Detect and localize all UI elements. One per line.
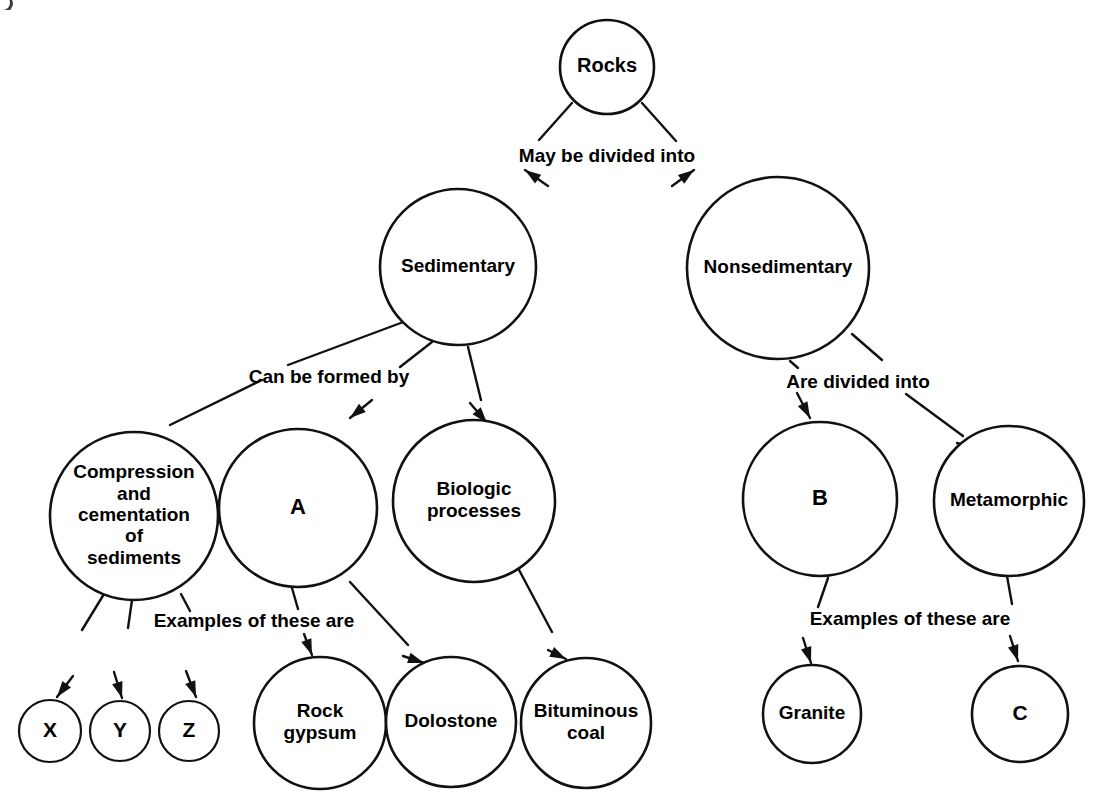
node-biologic[interactable]: Biologicprocesses (393, 420, 555, 582)
nodes-layer: RocksSedimentaryNonsedimentaryCompressio… (19, 20, 1084, 789)
edge-sedimentary-to-biologic: Can be formed by (468, 347, 487, 423)
node-metamorphic[interactable]: Metamorphic (934, 426, 1084, 576)
node-rocks[interactable]: Rocks (560, 20, 654, 114)
edge-line (790, 361, 798, 368)
node-label: X (43, 718, 57, 741)
edge-label-examples-of-these-are-left: Examples of these are (154, 610, 355, 631)
edge-line (906, 394, 963, 436)
node-label: Sedimentary (401, 255, 515, 276)
node-label: Z (183, 718, 196, 741)
edge-line (468, 347, 481, 400)
node-label: Granite (779, 702, 846, 723)
edge-line (852, 334, 882, 360)
edge-line (539, 103, 572, 140)
node-label: B (812, 485, 828, 510)
node-label: Biologicprocesses (427, 478, 521, 520)
node-granite[interactable]: Granite (763, 665, 861, 763)
arrowhead-icon (801, 646, 811, 663)
edge-line (1007, 576, 1012, 604)
edge-line (642, 103, 676, 141)
edge-a-to-dolostone: Examples of these are (350, 582, 424, 663)
node-rockgypsum[interactable]: Rockgypsum (254, 657, 386, 789)
node-label: Rocks (577, 54, 637, 76)
edge-nonsedimentary-to-metamorphic: Are divided into (852, 334, 980, 451)
arrowhead-icon (678, 170, 694, 184)
node-a[interactable]: A (219, 429, 377, 587)
arrowhead-icon (185, 680, 196, 697)
arrowhead-icon (301, 638, 312, 655)
node-label: Dolostone (405, 710, 498, 731)
node-bituminous[interactable]: Bituminouscoal (521, 658, 651, 788)
node-y[interactable]: Y (90, 701, 150, 761)
edge-line (518, 568, 552, 632)
edge-label-can-be-formed-by: Can be formed by (249, 366, 410, 387)
arrowhead-icon (525, 170, 541, 184)
node-label: A (290, 494, 306, 519)
arrowhead-icon (549, 647, 566, 659)
edge-line (288, 321, 406, 365)
edge-biologic-to-bituminous: Examples of these are (518, 568, 566, 659)
arrowhead-icon (407, 653, 424, 663)
node-label: Nonsedimentary (704, 256, 853, 277)
arrowhead-icon (112, 681, 122, 698)
node-sedimentary[interactable]: Sedimentary (380, 189, 536, 345)
edge-line (82, 594, 104, 630)
node-b[interactable]: B (743, 422, 897, 576)
arrowhead-icon (57, 681, 71, 697)
edge-label-may-be-divided-into: May be divided into (519, 145, 695, 166)
node-label: C (1012, 701, 1027, 724)
edge-compression-to-x: Examples of these are (57, 594, 104, 697)
diagram-canvas: May be divided intoMay be divided intoCa… (0, 0, 1101, 811)
node-label: Y (113, 718, 127, 741)
node-label: Metamorphic (950, 489, 1069, 510)
edge-line (181, 594, 190, 611)
node-compression[interactable]: Compressionandcementationofsediments (50, 432, 218, 600)
concept-map-diagram: May be divided intoMay be divided intoCa… (0, 0, 1101, 811)
node-x[interactable]: X (19, 700, 81, 762)
edge-line (292, 588, 298, 609)
edge-label-are-divided-into: Are divided into (786, 371, 930, 392)
edge-line (350, 582, 408, 645)
node-label: Compressionandcementationofsediments (73, 461, 194, 567)
edge-line (400, 342, 432, 367)
arrowhead-icon (1008, 644, 1018, 661)
node-dolostone[interactable]: Dolostone (386, 657, 516, 787)
node-c[interactable]: C (972, 666, 1068, 762)
arrowhead-icon (798, 401, 810, 418)
node-nonsedimentary[interactable]: Nonsedimentary (687, 177, 869, 359)
edge-label-examples-of-these-are-right: Examples of these are (810, 608, 1011, 629)
edge-line (128, 600, 132, 628)
edge-line (818, 578, 828, 607)
node-z[interactable]: Z (159, 701, 219, 761)
edge-compression-to-y: Examples of these are (112, 600, 132, 698)
